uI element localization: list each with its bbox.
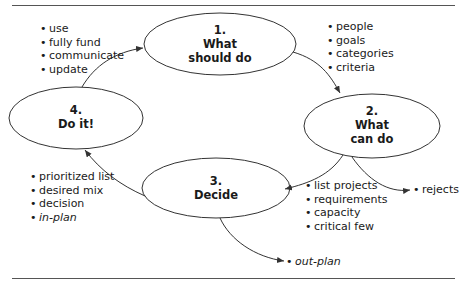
bullet-item: rejects xyxy=(413,183,459,197)
bullet-item: goals xyxy=(327,34,394,48)
can-do-bullets: list projects requirements capacity crit… xyxy=(305,179,388,233)
node-4-label: 4. Do it! xyxy=(16,103,136,131)
bullet-item: criteria xyxy=(327,61,394,75)
node-2-line1: What xyxy=(312,118,432,132)
node-4-number: 4. xyxy=(16,103,136,117)
node-3-number: 3. xyxy=(156,174,276,188)
bullet-item: list projects xyxy=(305,179,388,193)
rejects-bullets: rejects xyxy=(413,183,459,197)
bullet-item: decision xyxy=(30,197,114,211)
node-2-line2: can do xyxy=(312,132,432,146)
should-do-bullets: people goals categories criteria xyxy=(327,20,394,74)
out-plan-bullets: out-plan xyxy=(286,255,341,269)
bullet-item: communicate xyxy=(40,49,124,63)
bullet-item: critical few xyxy=(305,220,388,234)
bullet-item: requirements xyxy=(305,193,388,207)
bullet-item: people xyxy=(327,20,394,34)
bullet-item: update xyxy=(40,63,124,77)
node-1-line2: should do xyxy=(160,51,280,65)
node-3-line1: Decide xyxy=(156,188,276,202)
node-1-label: 1. What should do xyxy=(160,23,280,65)
node-2-number: 2. xyxy=(312,104,432,118)
arrow-3-to-out-plan xyxy=(220,218,284,261)
node-2-label: 2. What can do xyxy=(312,104,432,146)
node-4-line1: Do it! xyxy=(16,117,136,131)
node-3-label: 3. Decide xyxy=(156,174,276,202)
bullet-item: use xyxy=(40,22,124,36)
bullet-item: categories xyxy=(327,47,394,61)
bullet-item: fully fund xyxy=(40,36,124,50)
bullet-item: out-plan xyxy=(286,255,341,269)
decide-bullets: prioritized list desired mix decision in… xyxy=(30,170,114,224)
bullet-item: prioritized list xyxy=(30,170,114,184)
bullet-item: capacity xyxy=(305,206,388,220)
node-1-line1: What xyxy=(160,37,280,51)
bullet-item: desired mix xyxy=(30,184,114,198)
do-it-bullets: use fully fund communicate update xyxy=(40,22,124,76)
bullet-item: in-plan xyxy=(30,211,114,225)
node-1-number: 1. xyxy=(160,23,280,37)
